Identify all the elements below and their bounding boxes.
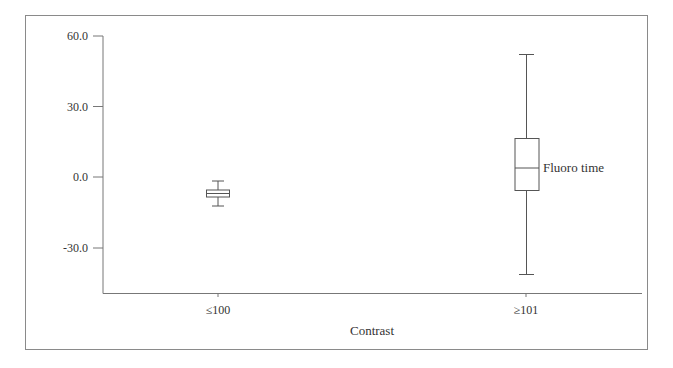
y-tick-label: 30.0 [67, 100, 88, 114]
box-le100 [207, 181, 230, 206]
series-label: Fluoro time [543, 160, 604, 175]
y-tick-label: 0.0 [73, 170, 88, 184]
x-tick-label: ≤100 [206, 303, 231, 317]
box-ge101 [515, 55, 539, 275]
x-axis-title: Contrast [350, 323, 394, 338]
y-ticks: 60.0 30.0 0.0 -30.0 [63, 29, 103, 255]
y-tick-label: -30.0 [63, 241, 88, 255]
x-tick-label: ≥101 [514, 303, 539, 317]
x-ticks: ≤100 ≥101 [206, 294, 539, 318]
box-plot-chart: 60.0 30.0 0.0 -30.0 ≤100 ≥101 Contrast F… [0, 0, 673, 368]
y-tick-label: 60.0 [67, 29, 88, 43]
